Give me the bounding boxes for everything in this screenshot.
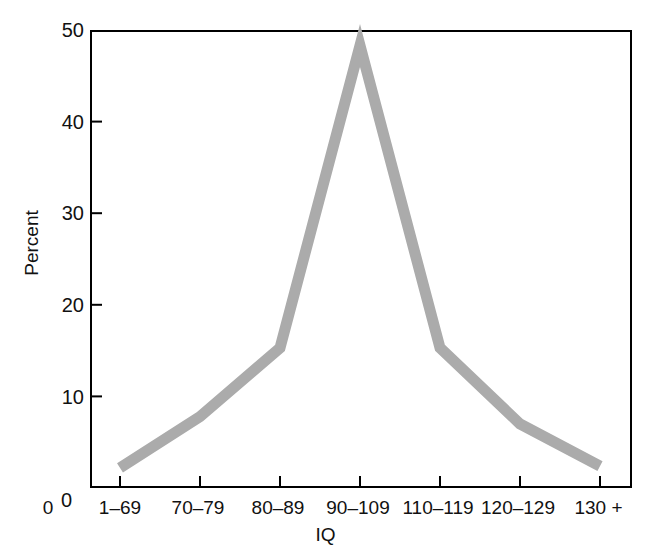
y-tick-label-10: 10 — [40, 386, 84, 409]
x-axis-title: IQ — [0, 524, 651, 546]
y-tick-label-30: 30 — [40, 202, 84, 225]
origin-tick-label: 0 — [28, 497, 68, 519]
chart-figure: 50 40 30 20 10 0 Percent 1–69 70–79 80–8… — [0, 0, 651, 554]
y-axis-title: Percent — [21, 193, 43, 293]
x-tick-label-6: 130 + — [551, 497, 646, 519]
y-tick-label-40: 40 — [40, 111, 84, 134]
y-tick-label-20: 20 — [40, 294, 84, 317]
y-tick-label-50: 50 — [40, 19, 84, 42]
plot-area-frame — [90, 30, 632, 488]
